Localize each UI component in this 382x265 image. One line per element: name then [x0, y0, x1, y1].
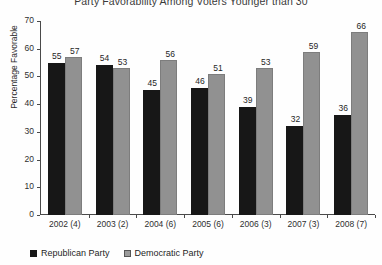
bar-group: 4651	[191, 21, 225, 215]
bar-value-label: 59	[301, 41, 325, 51]
x-axis-tick-mark	[327, 215, 328, 218]
bar-democratic: 57	[65, 57, 82, 215]
y-axis-title: Percentage Favorable	[9, 7, 19, 127]
bar-group: 3666	[334, 21, 368, 215]
bar-democratic: 59	[303, 52, 320, 216]
y-axis-tick-label: 0	[29, 209, 34, 219]
y-axis-tick-label: 40	[25, 98, 34, 108]
legend-item-republican[interactable]: Republican Party	[30, 248, 110, 258]
bar-group: 3259	[286, 21, 320, 215]
bar-republican: 32	[286, 126, 303, 215]
chart-title: Party Favorability Among Voters Younger …	[0, 0, 382, 7]
bar-value-label: 51	[206, 63, 230, 73]
x-axis-tick-mark	[136, 215, 137, 218]
legend-item-democratic[interactable]: Democratic Party	[124, 248, 204, 258]
legend-label: Democratic Party	[135, 248, 204, 258]
bar-democratic: 53	[256, 68, 273, 215]
bar-value-label: 66	[349, 21, 373, 31]
bar-democratic: 51	[208, 74, 225, 215]
legend-swatch-icon	[30, 250, 37, 257]
y-axis-tick-label: 10	[25, 181, 34, 191]
bar-group: 5453	[96, 21, 130, 215]
chart-screenshot: Party Favorability Among Voters Younger …	[0, 0, 382, 265]
bar-value-label: 56	[158, 49, 182, 59]
bar-democratic: 53	[113, 68, 130, 215]
y-axis-tick-label: 30	[25, 126, 34, 136]
x-axis-tick-mark	[89, 215, 90, 218]
bar-value-label: 53	[254, 57, 278, 67]
x-axis-tick-mark	[232, 215, 233, 218]
bar-group: 5557	[48, 21, 82, 215]
bar-republican: 45	[143, 90, 160, 215]
bar-group: 3953	[239, 21, 273, 215]
chart-legend: Republican PartyDemocratic Party	[30, 248, 204, 258]
y-axis-tick-mark	[37, 215, 40, 216]
bar-value-label: 53	[111, 57, 135, 67]
bar-value-label: 57	[63, 46, 87, 56]
x-axis-labels: 2002 (4)2003 (2)2004 (6)2005 (6)2006 (3)…	[41, 219, 375, 233]
bar-republican: 55	[48, 63, 65, 215]
y-axis-tick-label: 20	[25, 154, 34, 164]
x-axis-tick-mark	[184, 215, 185, 218]
x-axis-label: 2008 (7)	[319, 219, 382, 229]
x-axis-tick-mark	[375, 215, 376, 218]
y-axis-tick-label: 70	[25, 15, 34, 25]
y-axis-tick-label: 50	[25, 70, 34, 80]
bar-group: 4556	[143, 21, 177, 215]
bars-layer: 5557545345564651395332593666	[41, 21, 375, 215]
bar-republican: 54	[96, 65, 113, 215]
y-axis-tick-label: 60	[25, 43, 34, 53]
bar-republican: 39	[239, 107, 256, 215]
bar-republican: 36	[334, 115, 351, 215]
bar-democratic: 56	[160, 60, 177, 215]
legend-label: Republican Party	[41, 248, 110, 258]
bar-democratic: 66	[351, 32, 368, 215]
bar-republican: 46	[191, 88, 208, 215]
legend-swatch-icon	[124, 250, 131, 257]
x-axis-tick-mark	[280, 215, 281, 218]
